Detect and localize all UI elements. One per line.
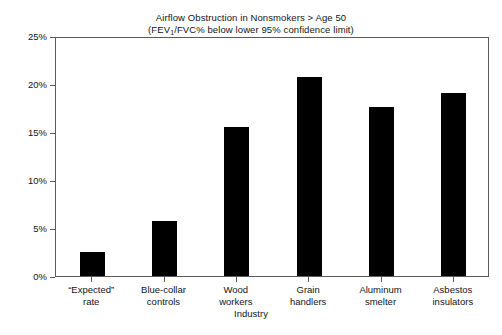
plot-area — [55, 37, 489, 277]
x-axis-tick-label-line: Asbestos — [407, 284, 499, 296]
x-axis-tick-label: Asbestosinsulators — [407, 284, 499, 307]
x-axis-tick-mark — [308, 277, 309, 282]
x-axis-tick-mark — [381, 277, 382, 282]
bar — [152, 221, 177, 276]
chart-subtitle-subscript: 1 — [170, 29, 174, 36]
chart-figure: Airflow Obstruction in Nonsmokers > Age … — [0, 0, 502, 335]
y-axis-tick-label: 25% — [0, 31, 55, 43]
bar — [80, 252, 105, 276]
bar — [441, 93, 466, 276]
x-axis-tick-mark — [453, 277, 454, 282]
x-axis-tick-mark — [236, 277, 237, 282]
chart-subtitle-prefix: (FEV — [148, 24, 170, 35]
x-axis-tick-label-line: insulators — [407, 296, 499, 308]
bar — [297, 77, 322, 276]
y-axis-tick-mark — [50, 277, 55, 278]
y-axis-tick-label: 10% — [0, 175, 55, 187]
chart-subtitle-suffix: /FVC% below lower 95% confidence limit) — [174, 24, 354, 35]
x-axis-tick-mark — [164, 277, 165, 282]
y-axis-tick-label: 15% — [0, 127, 55, 139]
chart-title-block: Airflow Obstruction in Nonsmokers > Age … — [0, 12, 502, 37]
y-axis-tick-label: 0% — [0, 271, 55, 283]
x-axis-tick-mark — [91, 277, 92, 282]
chart-subtitle: (FEV1/FVC% below lower 95% confidence li… — [0, 24, 502, 37]
x-axis-title: Industry — [0, 308, 502, 319]
bar — [224, 127, 249, 276]
chart-title: Airflow Obstruction in Nonsmokers > Age … — [0, 12, 502, 24]
bar — [369, 107, 394, 276]
y-axis-tick-label: 20% — [0, 79, 55, 91]
y-axis-tick-label: 5% — [0, 223, 55, 235]
